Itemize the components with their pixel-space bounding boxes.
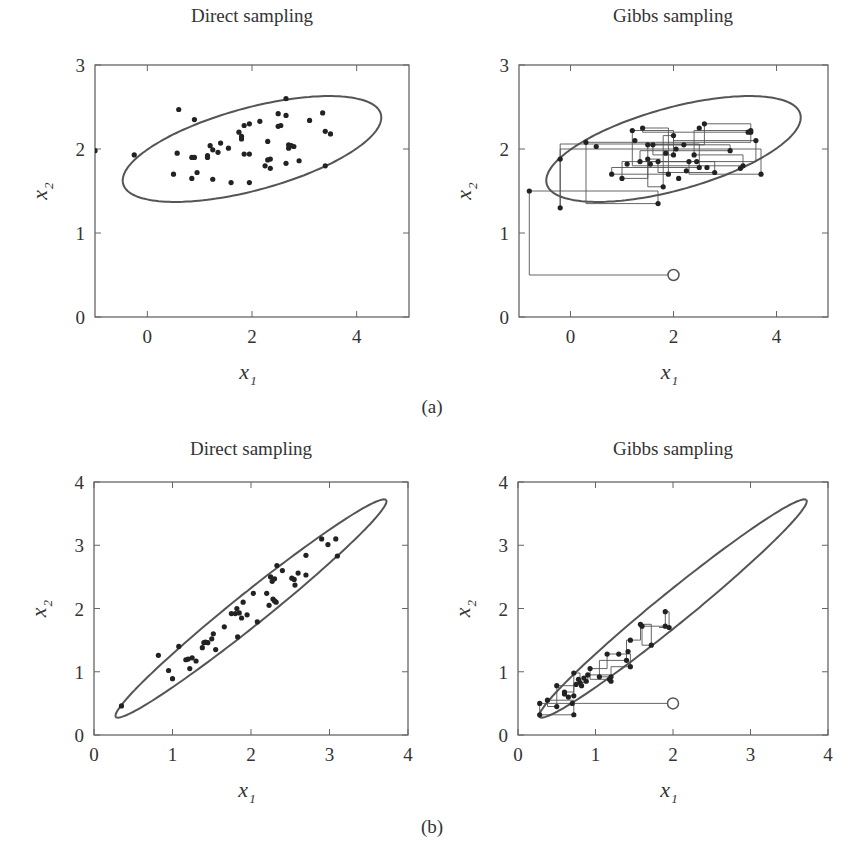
sample-point	[205, 155, 210, 160]
sample-point	[597, 674, 602, 679]
sample-point	[673, 146, 678, 151]
sample-point	[335, 553, 340, 558]
sample-point	[738, 166, 743, 171]
x-tick-label: 0	[143, 326, 153, 347]
sample-point	[648, 162, 653, 167]
panel-b-direct: Direct sampling 0123401234x1x2	[26, 438, 413, 806]
sample-point	[237, 610, 242, 615]
sample-point	[278, 123, 283, 128]
sample-point	[239, 615, 244, 620]
sample-point	[645, 156, 650, 161]
sample-point	[608, 679, 613, 684]
sample-point	[632, 138, 637, 143]
y-axis-label: x2	[451, 182, 480, 201]
sample-point	[276, 111, 281, 116]
sample-point	[274, 600, 279, 605]
sample-point	[686, 159, 691, 164]
y-axis-label: x2	[26, 599, 55, 618]
sample-point	[255, 619, 260, 624]
x-tick-label: 4	[823, 744, 833, 765]
sample-point	[280, 568, 285, 573]
sample-point	[283, 161, 288, 166]
sample-point	[247, 180, 252, 185]
x-tick-label: 1	[168, 744, 178, 765]
sample-point	[156, 653, 161, 658]
sample-point	[576, 677, 581, 682]
sample-point	[239, 136, 244, 141]
sample-point	[628, 664, 633, 669]
sample-point	[320, 110, 325, 115]
caption-b: (b)	[421, 816, 443, 838]
sample-point	[537, 712, 542, 717]
sample-point	[608, 674, 613, 679]
sample-point	[650, 142, 655, 147]
sample-point	[753, 138, 758, 143]
plot-area	[92, 96, 381, 202]
sample-point	[625, 162, 630, 167]
sample-point	[228, 180, 233, 185]
sample-point	[594, 144, 599, 149]
panel-title: Gibbs sampling	[613, 438, 733, 459]
sample-point	[234, 606, 239, 611]
sample-point	[209, 636, 214, 641]
axes-frame	[94, 482, 408, 735]
sample-point	[746, 130, 751, 135]
sample-point	[170, 676, 175, 681]
sample-point	[213, 647, 218, 652]
sample-point	[210, 147, 215, 152]
sample-point	[639, 624, 644, 629]
panel-title: Gibbs sampling	[613, 5, 733, 26]
sample-point	[676, 176, 681, 181]
sample-point	[226, 146, 231, 151]
sample-point	[303, 553, 308, 558]
sample-point	[192, 117, 197, 122]
sample-point	[283, 96, 288, 101]
x-tick-label: 4	[403, 744, 413, 765]
y-tick-label: 3	[76, 55, 86, 76]
sample-point	[655, 159, 660, 164]
sample-point	[637, 159, 642, 164]
sample-point	[609, 172, 614, 177]
sample-point	[296, 570, 301, 575]
sample-point	[702, 121, 707, 126]
sample-point	[666, 172, 671, 177]
sample-point	[328, 131, 333, 136]
sample-point	[307, 118, 312, 123]
sample-point	[218, 141, 223, 146]
sample-point	[268, 166, 273, 171]
sample-point	[242, 151, 247, 156]
y-tick-label: 2	[499, 599, 509, 620]
y-axis-label: x2	[27, 182, 56, 201]
sample-point	[570, 701, 575, 706]
sample-point	[692, 152, 697, 157]
sample-point	[272, 576, 277, 581]
sample-point	[587, 666, 592, 671]
sample-point	[605, 651, 610, 656]
sample-point	[562, 691, 567, 696]
panel-title: Direct sampling	[191, 5, 313, 26]
sample-point	[176, 644, 181, 649]
x-axis-label: x1	[660, 359, 678, 388]
y-tick-label: 1	[76, 223, 86, 244]
sample-point	[132, 152, 137, 157]
y-tick-label: 3	[500, 55, 510, 76]
y-tick-label: 0	[75, 725, 85, 746]
plot-area	[116, 499, 387, 717]
y-tick-label: 0	[499, 725, 509, 746]
confidence-ellipse	[123, 96, 382, 202]
sample-point	[244, 612, 249, 617]
sample-point	[297, 158, 302, 163]
panel-b-gibbs: Gibbs sampling 0123401234x1x2	[450, 438, 833, 806]
sample-point	[571, 693, 576, 698]
sample-point	[671, 133, 676, 138]
x-tick-label: 2	[668, 744, 678, 765]
y-tick-label: 1	[75, 662, 85, 683]
sample-point	[251, 591, 256, 596]
sample-point	[192, 155, 197, 160]
gibbs-path	[529, 124, 761, 275]
x-axis-label: x1	[237, 777, 255, 806]
sample-point	[663, 609, 668, 614]
sample-point	[704, 165, 709, 170]
sample-point	[247, 151, 252, 156]
sample-point	[193, 658, 198, 663]
